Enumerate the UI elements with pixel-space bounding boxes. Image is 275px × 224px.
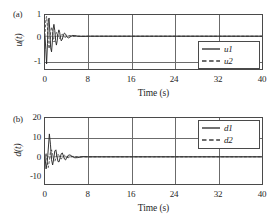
panel-b-ytick-20: 20 — [17, 112, 41, 122]
panel-a-legend-label-u1: u1 — [224, 44, 233, 54]
panel-b-ytick-0: 0 — [17, 152, 41, 162]
panel-b-xtick-16: 16 — [122, 189, 140, 199]
panel-a-xtick-32: 32 — [209, 74, 227, 84]
panel-a-ytick-0: 0 — [20, 32, 41, 42]
panel-b-xtick-32: 32 — [209, 189, 227, 199]
panel-a: (a) u(t) 1 0 -1 — [0, 0, 275, 112]
panel-b-ytick-minus10: -10 — [12, 171, 41, 181]
panel-b-xtick-0: 0 — [38, 189, 51, 199]
panel-b-xlabel: Time (s) — [44, 203, 263, 213]
panel-a-xtick-16: 16 — [122, 74, 140, 84]
dashed-line-icon — [201, 57, 221, 65]
figure-container: (a) u(t) 1 0 -1 — [0, 0, 275, 224]
panel-b-legend-row-d1: d1 — [201, 122, 256, 134]
panel-b-xtick-24: 24 — [165, 189, 183, 199]
panel-b-xtick-8: 8 — [81, 189, 94, 199]
panel-a-xtick-40: 40 — [253, 74, 271, 84]
solid-line-icon — [201, 124, 221, 132]
panel-b-series-d2 — [45, 150, 262, 168]
panel-a-legend-row-u2: u2 — [201, 55, 256, 67]
panel-a-xtick-8: 8 — [81, 74, 94, 84]
panel-a-legend-row-u1: u1 — [201, 43, 256, 55]
panel-b-legend-label-d1: d1 — [224, 123, 233, 133]
panel-a-xtick-0: 0 — [38, 74, 51, 84]
panel-a-legend: u1 u2 — [198, 41, 260, 69]
panel-a-ytick-1: 1 — [20, 9, 41, 19]
panel-b-plot-area: d1 d2 — [44, 117, 263, 185]
solid-line-icon — [201, 45, 221, 53]
panel-b: (b) d(t) 20 10 0 -10 — [0, 104, 275, 224]
panel-a-ytick-minus1: -1 — [16, 56, 41, 66]
panel-b-legend-label-d2: d2 — [224, 135, 233, 145]
panel-b-xtick-40: 40 — [253, 189, 271, 199]
panel-a-xtick-24: 24 — [165, 74, 183, 84]
dashed-line-icon — [201, 136, 221, 144]
panel-b-ytick-10: 10 — [17, 132, 41, 142]
panel-a-legend-label-u2: u2 — [224, 56, 233, 66]
panel-a-xlabel: Time (s) — [44, 88, 263, 98]
panel-b-legend: d1 d2 — [198, 120, 260, 149]
panel-a-plot-area: u1 u2 — [44, 14, 263, 70]
panel-b-legend-row-d2: d2 — [201, 134, 256, 146]
